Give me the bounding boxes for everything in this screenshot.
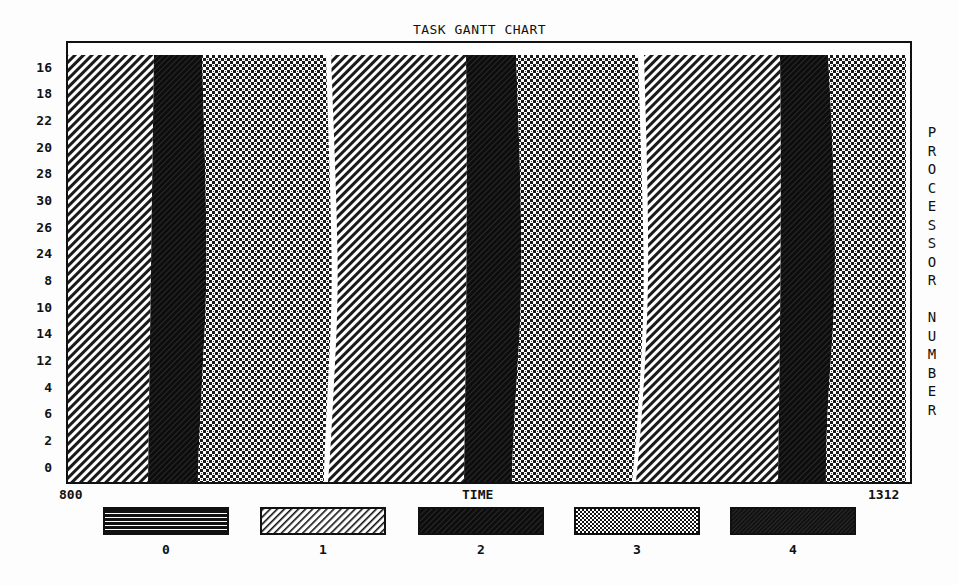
gantt-bands xyxy=(68,43,910,482)
y-tick: 0 xyxy=(0,461,52,475)
legend-label: 2 xyxy=(418,542,544,557)
y-tick: 6 xyxy=(0,407,52,421)
y-tick: 26 xyxy=(0,221,52,235)
y-axis-title: P R O C E S S O R N U M B E R xyxy=(924,123,940,419)
legend-swatch-checker-dots xyxy=(574,507,700,535)
band-state-2 xyxy=(464,55,521,482)
y-tick: 12 xyxy=(0,354,52,368)
y-tick: 8 xyxy=(0,274,52,288)
y-tick: 18 xyxy=(0,87,52,101)
band-state-2 xyxy=(148,55,206,482)
band-state-1 xyxy=(68,55,154,482)
legend-item-2: 2 xyxy=(418,507,544,557)
band-state-1 xyxy=(636,55,781,482)
y-tick: 24 xyxy=(0,247,52,261)
legend-item-3: 3 xyxy=(574,507,700,557)
legend-swatch-dense-dark-hatch xyxy=(730,507,856,535)
legend-swatch-horizontal-lines xyxy=(103,507,229,535)
y-tick: 4 xyxy=(0,381,52,395)
band-state-3 xyxy=(826,55,906,482)
chart-title: TASK GANTT CHART xyxy=(0,22,959,37)
band-state-3 xyxy=(512,55,644,482)
band-state-3 xyxy=(198,55,332,482)
legend-label: 4 xyxy=(730,542,856,557)
legend-swatch-solid-dark xyxy=(418,507,544,535)
legend-swatch-diagonal-hatch xyxy=(260,507,386,535)
x-axis-title: TIME xyxy=(462,487,493,502)
y-tick: 30 xyxy=(0,194,52,208)
y-tick: 10 xyxy=(0,301,52,315)
y-tick: 2 xyxy=(0,434,52,448)
y-tick: 28 xyxy=(0,167,52,181)
y-tick: 20 xyxy=(0,141,52,155)
y-tick: 22 xyxy=(0,114,52,128)
legend-item-4: 4 xyxy=(730,507,856,557)
legend-label: 1 xyxy=(260,542,386,557)
legend-item-1: 1 xyxy=(260,507,386,557)
legend-item-0: 0 xyxy=(103,507,229,557)
y-tick: 14 xyxy=(0,327,52,341)
x-axis-min-label: 800 xyxy=(59,487,82,502)
y-tick: 16 xyxy=(0,61,52,75)
band-state-1 xyxy=(328,55,467,482)
x-axis-max-label: 1312 xyxy=(868,487,899,502)
legend-label: 3 xyxy=(574,542,700,557)
band-state-2 xyxy=(778,55,835,482)
gantt-plot-area xyxy=(66,41,912,484)
legend-label: 0 xyxy=(103,542,229,557)
